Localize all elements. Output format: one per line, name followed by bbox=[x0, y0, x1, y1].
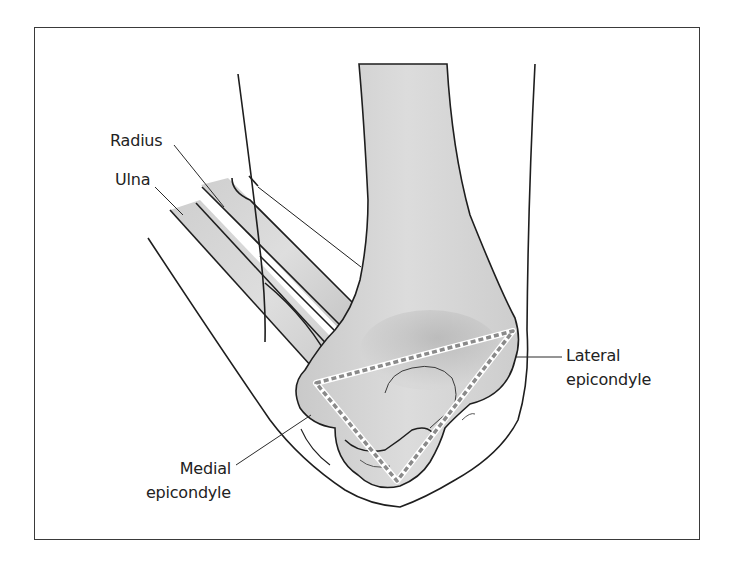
medial-epicondyle-label-line2: epicondyle bbox=[130, 483, 231, 502]
medial-epicondyle-leader-line bbox=[236, 415, 311, 465]
ulna-label: Ulna bbox=[115, 170, 150, 189]
elbow-illustration bbox=[0, 0, 734, 569]
lateral-epicondyle-label-line1: Lateral bbox=[566, 346, 620, 365]
radius-leader-line bbox=[174, 145, 224, 207]
medial-epicondyle-label-line1: Medial bbox=[130, 459, 231, 478]
radius-label: Radius bbox=[110, 131, 162, 150]
humerus-bone bbox=[296, 64, 519, 488]
lateral-epicondyle-label-line2: epicondyle bbox=[566, 370, 651, 389]
elbow-diagram: Radius Ulna Lateral epicondyle Medial ep… bbox=[0, 0, 734, 569]
ulna-leader-line bbox=[155, 187, 183, 215]
